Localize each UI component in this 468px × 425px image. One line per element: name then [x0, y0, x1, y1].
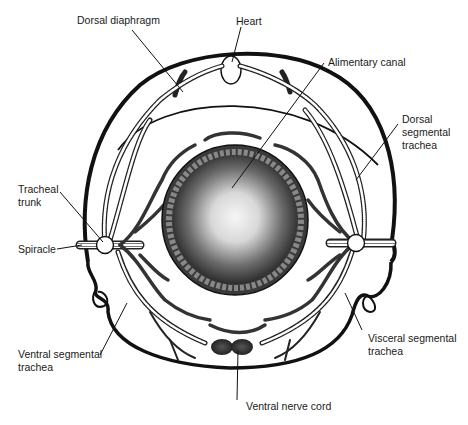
- right-trunk-junction: [348, 235, 365, 252]
- label-ventral-nerve-cord: Ventral nerve cord: [246, 400, 331, 413]
- label-line: segmental: [402, 126, 450, 139]
- label-tracheal-trunk: Tracheal trunk: [18, 183, 58, 209]
- label-line: Ventral segmental: [18, 348, 102, 361]
- label-line: Dorsal: [402, 113, 450, 126]
- label-ventral-segmental-trachea: Ventral segmental trachea: [18, 348, 102, 374]
- label-dorsal-diaphragm: Dorsal diaphragm: [77, 14, 160, 27]
- label-visceral-segmental-trachea: Visceral segmental trachea: [368, 332, 457, 358]
- label-line: Visceral segmental: [368, 332, 457, 345]
- label-line: trunk: [18, 196, 58, 209]
- label-line: Tracheal: [18, 183, 58, 196]
- label-alimentary-canal: Alimentary canal: [328, 56, 406, 69]
- heart: [221, 56, 241, 84]
- label-dorsal-segmental-trachea: Dorsal segmental trachea: [402, 113, 450, 152]
- label-line: trachea: [368, 345, 457, 358]
- ventral-nerve-cord: [211, 339, 253, 355]
- alimentary-canal: [162, 145, 308, 295]
- left-trunk-junction: [97, 237, 114, 254]
- label-heart: Heart: [236, 15, 262, 28]
- label-line: trachea: [18, 361, 102, 374]
- label-line: trachea: [402, 139, 450, 152]
- label-spiracle: Spiracle: [18, 243, 56, 256]
